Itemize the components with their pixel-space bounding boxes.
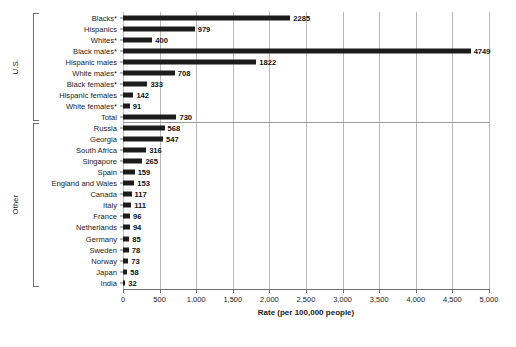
bar	[123, 159, 142, 164]
x-axis-tick-label: 4,000	[406, 295, 425, 304]
category-label: Black females*	[2, 79, 120, 88]
bar	[123, 103, 130, 108]
bar	[123, 225, 130, 230]
x-axis-tick	[196, 289, 197, 293]
category-label: Singapore	[2, 157, 120, 166]
x-axis-tick	[306, 289, 307, 293]
x-axis-tick-label: 1,500	[223, 295, 242, 304]
bar-chart-figure: U.S. Other Blacks*HispanicsWhites*Black …	[0, 0, 516, 347]
bar	[123, 37, 152, 42]
bar	[123, 280, 125, 285]
bar	[123, 81, 147, 86]
x-axis-tick	[233, 289, 234, 293]
gridline	[306, 12, 307, 289]
category-label: Black males*	[2, 46, 120, 55]
bar	[123, 48, 471, 53]
bar	[123, 170, 135, 175]
bar-value-label: 316	[149, 146, 162, 155]
gridline	[343, 12, 344, 289]
x-axis-tick	[269, 289, 270, 293]
x-axis-tick-label: 2,500	[297, 295, 316, 304]
bar-value-label: 4749	[474, 46, 491, 55]
bar-value-label: 547	[166, 135, 179, 144]
gridline	[452, 12, 453, 289]
gridline	[196, 12, 197, 289]
x-axis-tick	[160, 289, 161, 293]
category-label: Canada	[2, 190, 120, 199]
category-label: Whites*	[2, 35, 120, 44]
x-axis-tick-label: 500	[153, 295, 166, 304]
x-axis-tick-label: 3,500	[370, 295, 389, 304]
bar	[123, 59, 256, 64]
bar	[123, 236, 129, 241]
bar	[123, 148, 146, 153]
bar	[123, 114, 176, 119]
category-label: White females*	[2, 101, 120, 110]
x-axis-tick	[123, 289, 124, 293]
bar-value-label: 111	[134, 201, 146, 210]
bar-value-label: 159	[138, 168, 151, 177]
bar	[123, 181, 134, 186]
gridline	[379, 12, 380, 289]
bar-value-label: 1822	[259, 57, 276, 66]
bar-value-label: 142	[136, 90, 149, 99]
bar-value-label: 58	[130, 267, 138, 276]
category-label: Hispanic females	[2, 90, 120, 99]
category-label: Spain	[2, 168, 120, 177]
bar	[123, 203, 131, 208]
category-label: South Africa	[2, 146, 120, 155]
bar-value-label: 85	[132, 234, 140, 243]
bar-value-label: 265	[145, 157, 158, 166]
category-label: Blacks*	[2, 13, 120, 22]
plot-area: 2285979400474918227083331429173056854731…	[123, 12, 489, 303]
gridline	[269, 12, 270, 289]
gridline	[416, 12, 417, 289]
bar-value-label: 2285	[293, 13, 310, 22]
bar	[123, 126, 165, 131]
x-axis-tick	[343, 289, 344, 293]
bar-value-label: 117	[135, 190, 147, 199]
x-axis-tick	[452, 289, 453, 293]
bar-value-label: 94	[133, 223, 141, 232]
bar-value-label: 96	[133, 212, 141, 221]
bar	[123, 15, 290, 20]
gridline	[233, 12, 234, 289]
bar	[123, 269, 127, 274]
x-axis-tick-label: 0	[121, 295, 125, 304]
x-axis-tick-label: 1,000	[187, 295, 206, 304]
category-label: Russia	[2, 124, 120, 133]
x-axis-tick	[416, 289, 417, 293]
bar	[123, 247, 129, 252]
category-label: Italy	[2, 201, 120, 210]
bar	[123, 26, 195, 31]
category-label: France	[2, 212, 120, 221]
category-label: White males*	[2, 68, 120, 77]
category-label: Georgia	[2, 135, 120, 144]
bar-value-label: 400	[155, 35, 168, 44]
category-label: Sweden	[2, 245, 120, 254]
category-label: Hispanic males	[2, 57, 120, 66]
bar	[123, 258, 128, 263]
bar-value-label: 32	[128, 278, 136, 287]
category-label: Total	[2, 112, 120, 121]
x-axis-tick	[379, 289, 380, 293]
bar-value-label: 979	[198, 24, 211, 33]
bar-value-label: 91	[133, 101, 141, 110]
category-label: Japan	[2, 267, 120, 276]
bar-value-label: 568	[168, 124, 181, 133]
bar-value-label: 333	[150, 79, 163, 88]
category-label: Netherlands	[2, 223, 120, 232]
x-axis-tick-label: 3,000	[333, 295, 352, 304]
bar	[123, 70, 175, 75]
bar-value-label: 730	[179, 112, 192, 121]
x-axis-tick	[489, 289, 490, 293]
category-label: Hispanics	[2, 24, 120, 33]
bar	[123, 92, 133, 97]
bar	[123, 137, 163, 142]
x-axis-tick-label: 4,500	[443, 295, 462, 304]
x-axis-tick-label: 5,000	[480, 295, 499, 304]
bar	[123, 192, 132, 197]
category-label: Germany	[2, 234, 120, 243]
bar-value-label: 708	[178, 68, 191, 77]
category-label: England and Wales	[2, 179, 120, 188]
